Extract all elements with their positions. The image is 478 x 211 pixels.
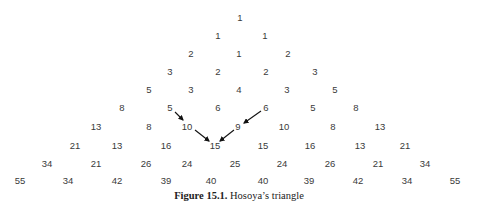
- triangle-entry: 2: [285, 49, 290, 59]
- triangle-entry: 3: [284, 85, 289, 95]
- triangle-entry: 4: [236, 85, 241, 95]
- triangle-entry: 13: [355, 141, 366, 151]
- triangle-entry: 24: [182, 159, 193, 169]
- arrow-icon: [175, 112, 183, 120]
- triangle-entry: 3: [167, 67, 172, 77]
- triangle-entry: 15: [258, 141, 269, 151]
- triangle-entry: 5: [167, 103, 172, 113]
- arrow-icon: [220, 130, 234, 141]
- figure-caption-label: Figure 15.1.: [174, 190, 227, 201]
- arrow-icon: [195, 130, 209, 141]
- triangle-entry: 26: [141, 159, 152, 169]
- triangle-entry: 34: [63, 176, 74, 186]
- figure-caption: Figure 15.1. Hosoya’s triangle: [0, 191, 478, 202]
- triangle-entry: 1: [237, 13, 242, 23]
- triangle-entry: 15: [210, 141, 221, 151]
- triangle-entry: 42: [353, 176, 364, 186]
- triangle-entry: 6: [215, 103, 220, 113]
- triangle-entry: 16: [305, 141, 316, 151]
- triangle-entry: 21: [91, 159, 102, 169]
- triangle-entry: 34: [402, 176, 413, 186]
- triangle-entry: 42: [112, 176, 123, 186]
- triangle-entry: 8: [119, 103, 124, 113]
- triangle-entry: 1: [236, 49, 241, 59]
- triangle-entry: 24: [277, 159, 288, 169]
- triangle-entry: 55: [450, 176, 461, 186]
- triangle-entry: 6: [263, 103, 268, 113]
- triangle-entry: 13: [375, 122, 386, 132]
- triangle-entry: 13: [112, 141, 123, 151]
- triangle-entry: 40: [206, 176, 217, 186]
- triangle-entry: 5: [332, 85, 337, 95]
- triangle-entry: 55: [15, 176, 26, 186]
- triangle-entry: 3: [188, 85, 193, 95]
- triangle-entry: 21: [373, 159, 384, 169]
- triangle-entry: 26: [325, 159, 336, 169]
- hosoya-triangle-figure: 1112123223534358566581381091081321131615…: [0, 0, 478, 211]
- triangle-entry: 13: [91, 122, 102, 132]
- triangle-entry: 3: [312, 67, 317, 77]
- triangle-entry: 8: [330, 122, 335, 132]
- figure-caption-text: Hosoya’s triangle: [230, 190, 304, 201]
- triangle-entry: 10: [279, 122, 290, 132]
- triangle-entry: 8: [146, 122, 151, 132]
- triangle-entry: 25: [230, 159, 241, 169]
- triangle-entry: 40: [258, 176, 269, 186]
- triangle-entry: 39: [161, 176, 172, 186]
- triangle-entry: 1: [215, 31, 220, 41]
- triangle-entry: 34: [42, 159, 53, 169]
- triangle-entry: 21: [400, 141, 411, 151]
- triangle-entry: 39: [304, 176, 315, 186]
- triangle-entry: 21: [70, 141, 81, 151]
- triangle-entry: 1: [262, 31, 267, 41]
- triangle-entry: 5: [310, 103, 315, 113]
- triangle-entry: 34: [420, 159, 431, 169]
- triangle-entry: 10: [182, 122, 193, 132]
- triangle-entry: 9: [235, 122, 240, 132]
- triangle-entry: 8: [353, 103, 358, 113]
- triangle-entry: 2: [263, 67, 268, 77]
- triangle-entry: 16: [161, 141, 172, 151]
- arrow-icon: [244, 111, 261, 123]
- triangle-entry: 2: [215, 67, 220, 77]
- triangle-entry: 2: [188, 49, 193, 59]
- triangle-entry: 5: [146, 85, 151, 95]
